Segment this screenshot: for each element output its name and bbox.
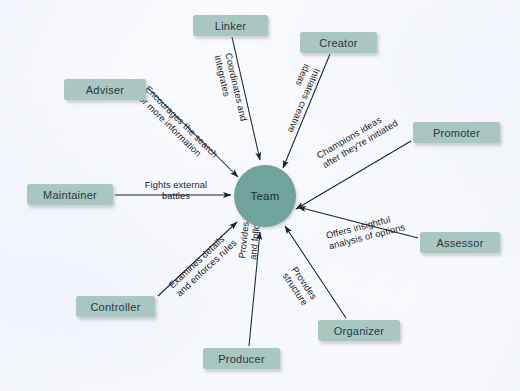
hub-node-team[interactable]: Team [234, 165, 296, 227]
node-label-assessor: Assessor [436, 237, 483, 249]
node-promoter[interactable]: Promoter [413, 122, 500, 143]
node-label-promoter: Promoter [433, 127, 480, 139]
node-controller[interactable]: Controller [76, 296, 155, 317]
edge-label-maintainer: Fights external battles [130, 180, 222, 203]
node-label-adviser: Adviser [86, 84, 124, 96]
hub-label: Team [251, 190, 280, 202]
node-creator[interactable]: Creator [300, 32, 377, 53]
node-producer[interactable]: Producer [203, 348, 280, 369]
node-label-creator: Creator [319, 37, 357, 49]
node-linker[interactable]: Linker [193, 15, 268, 36]
node-assessor[interactable]: Assessor [420, 232, 500, 253]
node-adviser[interactable]: Adviser [64, 79, 146, 100]
node-label-maintainer: Maintainer [43, 189, 97, 201]
node-label-controller: Controller [90, 301, 140, 313]
node-maintainer[interactable]: Maintainer [27, 184, 113, 205]
node-label-producer: Producer [218, 353, 265, 365]
diagram-canvas: Coordinates and integ­rates Initiates cr… [0, 0, 520, 391]
node-label-linker: Linker [215, 20, 246, 32]
node-label-organizer: Organizer [334, 325, 385, 337]
node-organizer[interactable]: Organizer [318, 320, 400, 341]
